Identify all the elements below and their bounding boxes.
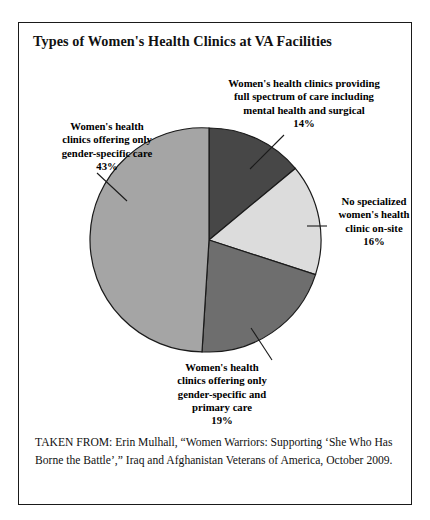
pie-label-full-spectrum-line1: Women's health clinics providing	[209, 77, 399, 90]
pie-label-no-clinic: No specialized women's health clinic on-…	[319, 195, 429, 248]
pie-chart: Women's health clinics providing full sp…	[19, 23, 413, 423]
pie-label-gender-only: Women's health clinics offering only gen…	[27, 120, 187, 173]
pie-label-full-spectrum-line2: full spectrum of care including	[209, 90, 399, 103]
pie-label-full-spectrum-line3: mental health and surgical	[209, 104, 399, 117]
pie-label-gender-primary: Women's health clinics offering only gen…	[137, 361, 307, 427]
pie-label-gender-primary-line4: primary care	[137, 401, 307, 414]
pie-label-no-clinic-line3: clinic on-site	[319, 222, 429, 235]
pie-label-gender-only-line2: clinics offering only	[27, 133, 187, 146]
pie-label-gender-only-percent: 43%	[27, 160, 187, 173]
pie-label-gender-only-line3: gender-specific care	[27, 147, 187, 160]
pie-label-gender-only-line1: Women's health	[27, 120, 187, 133]
pie-label-no-clinic-percent: 16%	[319, 235, 429, 248]
pie-label-gender-primary-line2: clinics offering only	[137, 374, 307, 387]
pie-label-gender-primary-percent: 19%	[137, 414, 307, 427]
pie-label-gender-primary-line3: gender-specific and	[137, 388, 307, 401]
figure-container: Types of Women's Health Clinics at VA Fa…	[18, 22, 412, 505]
pie-label-no-clinic-line1: No specialized	[319, 195, 429, 208]
source-attribution: TAKEN FROM: Erin Mulhall, “Women Warrior…	[35, 434, 399, 470]
pie-label-gender-primary-line1: Women's health	[137, 361, 307, 374]
pie-label-full-spectrum: Women's health clinics providing full sp…	[209, 77, 399, 130]
pie-label-full-spectrum-percent: 14%	[209, 117, 399, 130]
pie-label-no-clinic-line2: women's health	[319, 208, 429, 221]
